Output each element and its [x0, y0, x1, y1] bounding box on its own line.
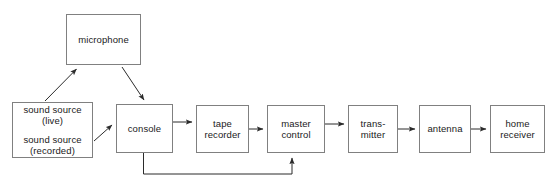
connector-console-to-master-control-feedback: [144, 153, 293, 174]
node-tape-recorder-label: tape recorder: [204, 118, 240, 141]
node-console-label: console: [128, 123, 161, 135]
connector-sound-source-to-console: [94, 125, 112, 141]
connector-microphone-to-console: [122, 67, 144, 100]
flow-diagram: microphone sound source (live) sound sou…: [0, 0, 557, 193]
connector-sound-source-to-microphone: [45, 69, 77, 101]
node-tape-recorder[interactable]: tape recorder: [196, 105, 249, 153]
node-console[interactable]: console: [116, 104, 173, 153]
node-antenna[interactable]: antenna: [419, 105, 471, 153]
node-sound-source-label-live: sound source (live): [23, 104, 81, 127]
node-master-control-label: master control: [281, 118, 311, 141]
node-transmitter[interactable]: trans- mitter: [348, 105, 398, 153]
node-sound-source-label-recorded: sound source (recorded): [23, 134, 81, 157]
node-sound-source[interactable]: sound source (live) sound source (record…: [12, 102, 93, 158]
node-transmitter-label: trans- mitter: [361, 118, 386, 141]
node-home-receiver-label: home receiver: [500, 118, 535, 141]
node-microphone-label: microphone: [78, 34, 129, 46]
node-home-receiver[interactable]: home receiver: [490, 105, 545, 153]
node-master-control[interactable]: master control: [267, 105, 325, 153]
node-microphone[interactable]: microphone: [66, 14, 141, 65]
node-antenna-label: antenna: [427, 123, 462, 135]
